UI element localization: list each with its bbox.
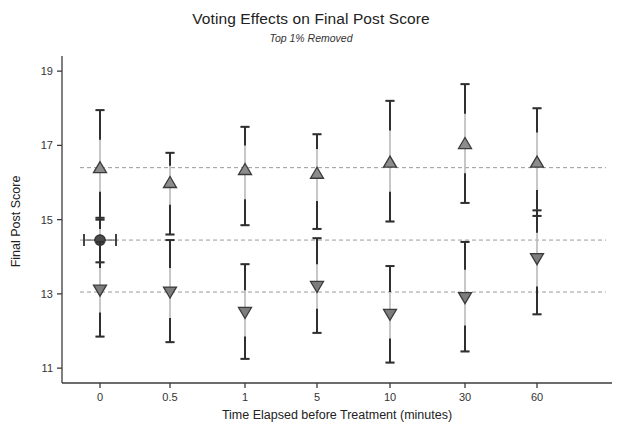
y-tick-label: 13 <box>41 288 53 300</box>
marker-triangle-down[interactable] <box>239 307 252 318</box>
marker-triangle-down[interactable] <box>459 293 472 304</box>
marker-triangle-up[interactable] <box>384 156 397 167</box>
marker-triangle-up[interactable] <box>311 167 324 178</box>
y-axis-title: Final Post Score <box>9 176 23 268</box>
marker-triangle-down[interactable] <box>311 281 324 292</box>
x-tick-label: 60 <box>531 391 543 403</box>
marker-triangle-down[interactable] <box>384 309 397 320</box>
plot-area: 1917151311Final Post Score00.515103060Ti… <box>0 0 622 424</box>
chart-container: Voting Effects on Final Post Score Top 1… <box>0 0 622 424</box>
y-tick-label: 11 <box>42 362 53 374</box>
marker-triangle-down[interactable] <box>531 254 544 265</box>
marker-triangle-up[interactable] <box>459 138 472 149</box>
y-tick-label: 19 <box>41 65 53 77</box>
x-tick-label: 30 <box>459 391 471 403</box>
x-tick-label: 0 <box>97 391 103 403</box>
x-tick-label: 10 <box>384 391 396 403</box>
marker-triangle-up[interactable] <box>531 156 544 167</box>
marker-triangle-up[interactable] <box>164 177 177 188</box>
x-axis-title: Time Elapsed before Treatment (minutes) <box>222 408 452 422</box>
marker-triangle-down[interactable] <box>94 285 107 296</box>
x-tick-label: 1 <box>242 391 248 403</box>
x-tick-label: 5 <box>314 391 320 403</box>
y-tick-label: 17 <box>41 139 53 151</box>
x-tick-label: 0.5 <box>162 391 177 403</box>
marker-triangle-up[interactable] <box>239 164 252 175</box>
y-tick-label: 15 <box>41 214 53 226</box>
